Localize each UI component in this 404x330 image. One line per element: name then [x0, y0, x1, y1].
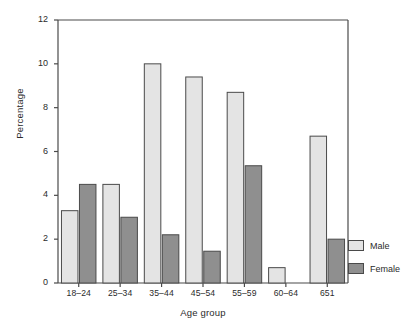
- bar-female-1: [121, 217, 138, 283]
- y-tick-label: 12: [24, 14, 48, 24]
- bar-male-3: [186, 77, 203, 283]
- legend: MaleFemale: [348, 240, 400, 286]
- legend-swatch-female: [348, 263, 364, 274]
- bar-male-2: [144, 64, 161, 283]
- x-tick-label: 18–24: [57, 288, 101, 298]
- y-tick-label: 10: [24, 58, 48, 68]
- x-tick-label: 35–44: [140, 288, 184, 298]
- y-tick-label: 8: [24, 102, 48, 112]
- y-tick-label: 6: [24, 146, 48, 156]
- y-tick-label: 2: [24, 233, 48, 243]
- y-tick-label: 0: [24, 277, 48, 287]
- legend-label: Female: [370, 264, 400, 274]
- bar-female-3: [204, 251, 221, 283]
- x-tick-label: 651: [305, 288, 349, 298]
- bar-female-2: [162, 235, 179, 283]
- x-tick-label: 25–34: [98, 288, 142, 298]
- bar-male-1: [103, 184, 120, 283]
- legend-item-female: Female: [348, 263, 400, 274]
- legend-item-male: Male: [348, 240, 400, 251]
- x-tick-label: 60–64: [264, 288, 308, 298]
- bar-male-5: [269, 268, 286, 283]
- legend-swatch-male: [348, 240, 364, 251]
- plot-area: [0, 0, 404, 330]
- bar-male-4: [227, 92, 244, 283]
- x-tick-label: 45–54: [181, 288, 225, 298]
- bar-female-4: [245, 166, 262, 283]
- bar-male-6: [310, 136, 327, 283]
- bar-male-0: [61, 211, 78, 283]
- legend-label: Male: [370, 241, 390, 251]
- bar-female-6: [328, 239, 345, 283]
- y-tick-label: 4: [24, 189, 48, 199]
- bar-chart-figure: Percentage Age group 024681012 18–2425–3…: [0, 0, 404, 330]
- x-tick-label: 55–59: [222, 288, 266, 298]
- bar-female-0: [79, 184, 96, 283]
